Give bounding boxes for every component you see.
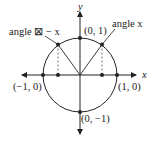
unit-circle-diagram: y x (0, 1) (1, 0) (−1, 0) (0, −1) angle … xyxy=(0,0,154,142)
label-point-0-1: (0, 1) xyxy=(84,26,107,37)
point-neg-cos-x xyxy=(56,73,60,77)
label-angle-pi-minus-x: angle ⊠ − x xyxy=(9,27,60,38)
label-angle-x: angle x xyxy=(112,19,143,30)
label-point-1-0: (1, 0) xyxy=(118,82,141,93)
point-angle-x xyxy=(100,43,104,47)
x-axis-label: x xyxy=(142,70,147,81)
point-1-0 xyxy=(115,73,119,77)
point-neg1-0 xyxy=(41,73,45,77)
point-0-1 xyxy=(78,36,82,40)
y-axis-label: y xyxy=(78,2,83,13)
radius-angle-x xyxy=(80,45,102,76)
label-point-neg1-0: (−1, 0) xyxy=(13,82,42,93)
radius-angle-pi-minus-x xyxy=(58,45,80,76)
point-cos-x xyxy=(100,73,104,77)
label-point-0-neg1: (0, −1) xyxy=(81,114,110,125)
point-angle-pi-minus-x xyxy=(56,43,60,47)
